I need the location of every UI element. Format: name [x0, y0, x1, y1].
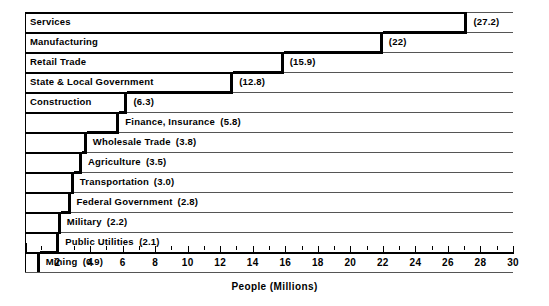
x-axis-tick	[123, 246, 124, 252]
x-axis-tick-label: 20	[344, 257, 356, 268]
x-axis-tick-label: 22	[377, 257, 389, 268]
bar-value-label: (6.3)	[133, 92, 154, 112]
x-axis-tick	[58, 246, 59, 252]
x-axis-tick-label: 18	[312, 257, 324, 268]
x-axis-minor-tick	[41, 246, 42, 250]
x-axis-tick-label: 8	[152, 257, 158, 268]
x-axis-minor-tick	[269, 246, 270, 250]
bar-value-label: (22)	[389, 32, 407, 52]
x-axis-minor-tick	[432, 246, 433, 250]
bar	[25, 112, 119, 132]
x-axis-minor-tick	[74, 246, 75, 250]
x-axis-tick-label: 30	[507, 257, 519, 268]
x-axis-minor-tick	[464, 246, 465, 250]
bar	[25, 252, 40, 272]
x-axis-minor-tick	[302, 246, 303, 250]
x-axis-minor-tick	[399, 246, 400, 250]
x-axis-tick-label: 10	[182, 257, 194, 268]
x-axis-tick-label: 26	[442, 257, 454, 268]
bar	[25, 132, 87, 152]
bar-category-label: Manufacturing	[30, 32, 98, 52]
bar-value-label: (3.0)	[154, 172, 175, 192]
bar-category-label: Services	[30, 12, 71, 32]
x-axis-line	[25, 252, 514, 254]
x-axis-title: People (Millions)	[0, 281, 549, 292]
bar-value-label: (3.5)	[146, 152, 167, 172]
bar-category-label: Transportation	[80, 172, 149, 192]
step-connector	[59, 231, 61, 234]
x-axis-tick	[415, 246, 416, 252]
x-axis-minor-tick	[106, 246, 107, 250]
x-axis-tick-label: 2	[55, 257, 61, 268]
bar-value-label: (2.2)	[107, 212, 128, 232]
x-axis-tick	[90, 246, 91, 252]
bar	[25, 192, 71, 212]
x-axis-tick	[350, 246, 351, 252]
step-connector	[127, 91, 233, 94]
bar-category-label: Construction	[30, 92, 92, 112]
step-connector	[383, 31, 468, 34]
x-axis-tick	[253, 246, 254, 252]
x-axis-tick-label: 24	[410, 257, 422, 268]
bar-value-label: (5.8)	[220, 112, 241, 132]
bar-category-label: Military	[67, 212, 102, 232]
x-axis-minor-tick	[236, 246, 237, 250]
bar-category-label: Federal Government	[77, 192, 173, 212]
step-connector	[87, 131, 120, 134]
x-axis-tick	[480, 246, 481, 252]
bar-value-label: (2.1)	[139, 232, 160, 252]
bar-category-label: Mining	[46, 252, 78, 272]
bar	[25, 172, 74, 192]
x-axis-tick	[220, 246, 221, 252]
bar-value-label: (15.9)	[290, 52, 316, 72]
step-connector	[74, 171, 82, 174]
x-axis-tick	[318, 246, 319, 252]
plot-area: Services(27.2)Manufacturing(22)Retail Tr…	[25, 12, 513, 252]
step-connector	[284, 51, 383, 54]
bar-value-label: (27.2)	[473, 12, 499, 32]
bar-value-label: (12.8)	[239, 72, 265, 92]
x-axis-tick	[383, 246, 384, 252]
x-axis-tick-label: 6	[120, 257, 126, 268]
step-connector	[71, 191, 74, 194]
step-connector	[61, 211, 71, 214]
x-axis-tick	[513, 246, 514, 252]
x-axis-minor-tick	[334, 246, 335, 250]
x-axis-minor-tick	[367, 246, 368, 250]
bar-category-label: State & Local Government	[30, 72, 154, 92]
x-axis-tick-label: 12	[214, 257, 226, 268]
x-axis-tick	[155, 246, 156, 252]
x-axis-minor-tick	[497, 246, 498, 250]
bar-value-label: (3.8)	[176, 132, 197, 152]
bar-category-label: Retail Trade	[30, 52, 86, 72]
x-axis-tick	[448, 246, 449, 252]
bar-category-label: Wholesale Trade	[93, 132, 171, 152]
staircase-bar-chart: Services(27.2)Manufacturing(22)Retail Tr…	[0, 0, 549, 306]
x-axis-tick	[188, 246, 189, 252]
bar-category-label: Finance, Insurance	[125, 112, 215, 132]
step-connector	[119, 111, 127, 114]
x-axis-tick	[285, 246, 286, 252]
bar	[25, 12, 467, 32]
plot-bottom-line	[25, 272, 513, 273]
x-axis-tick-label: 4	[87, 257, 93, 268]
x-axis-minor-tick	[139, 246, 140, 250]
bar-value-label: (2.8)	[178, 192, 199, 212]
bar	[25, 212, 61, 232]
x-axis-tick-label: 16	[279, 257, 291, 268]
bar-category-label: Agriculture	[88, 152, 141, 172]
x-axis-tick-label: 14	[247, 257, 259, 268]
x-axis-minor-tick	[171, 246, 172, 250]
step-connector	[233, 71, 283, 74]
x-axis-tick-label: 28	[475, 257, 487, 268]
step-connector	[82, 151, 87, 154]
bar	[25, 152, 82, 172]
x-axis-minor-tick	[204, 246, 205, 250]
